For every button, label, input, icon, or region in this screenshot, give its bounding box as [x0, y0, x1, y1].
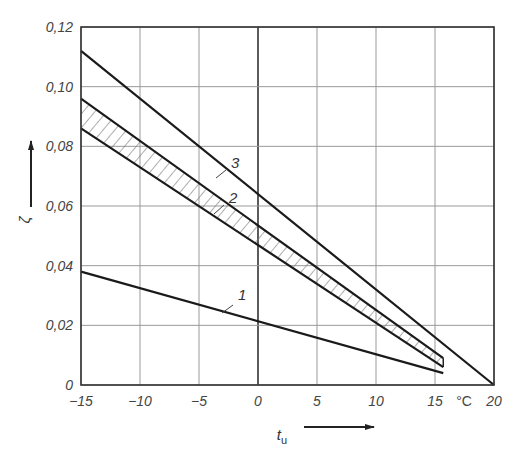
y-axis-label: ζ	[16, 141, 33, 223]
label-leader	[216, 170, 226, 178]
y-tick-label: 0,10	[46, 79, 73, 95]
x-tick-labels: −15−10−505101520	[69, 393, 502, 409]
series-line-2-lower-bound-	[81, 128, 443, 367]
x-unit-label: °C	[456, 393, 472, 409]
x-tick-label: −5	[191, 393, 207, 409]
x-axis-label: tu	[277, 426, 374, 446]
y-tick-label: 0,02	[46, 317, 73, 333]
x-tick-label: 5	[313, 393, 321, 409]
svg-text:ζ: ζ	[16, 215, 33, 223]
x-tick-label: 20	[485, 393, 502, 409]
x-axis-label-sub: u	[281, 434, 287, 446]
x-tick-label: 15	[427, 393, 443, 409]
y-tick-label: 0,06	[46, 198, 73, 214]
x-tick-label: 10	[368, 393, 384, 409]
y-tick-label: 0,04	[46, 258, 73, 274]
y-tick-label: 0,12	[46, 19, 73, 35]
series-line-2-upper-bound-	[81, 99, 443, 359]
series-label-1: 1	[238, 286, 246, 303]
series-label-2: 2	[228, 189, 238, 206]
y-tick-label: 0,08	[46, 138, 73, 154]
x-tick-label: −10	[128, 393, 152, 409]
x-tick-label: 0	[254, 393, 262, 409]
x-tick-label: −15	[69, 393, 93, 409]
y-tick-labels: 00,020,040,060,080,100,12	[46, 19, 73, 393]
svg-text:tu: tu	[277, 426, 287, 446]
chart: 00,020,040,060,080,100,12 −15−10−5051015…	[0, 0, 523, 452]
series-line-3	[81, 51, 494, 385]
data-lines	[81, 51, 494, 385]
grid-lines	[81, 27, 494, 385]
series-label-3: 3	[231, 154, 240, 171]
y-tick-label: 0	[65, 377, 73, 393]
